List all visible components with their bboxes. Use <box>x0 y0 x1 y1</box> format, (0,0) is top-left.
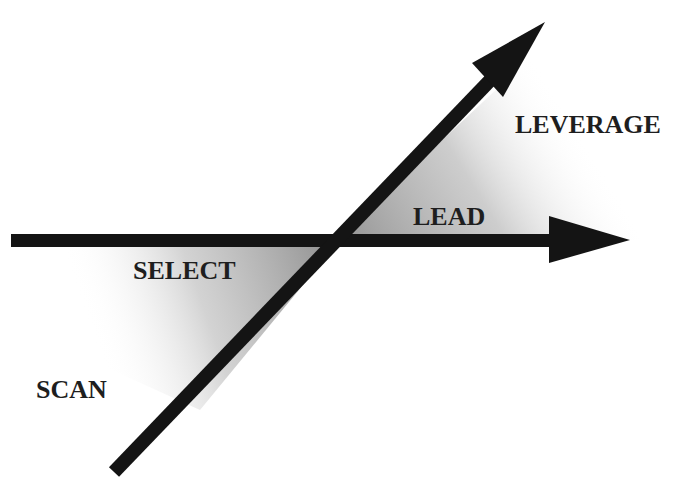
label-select: SELECT <box>133 256 236 285</box>
label-scan: SCAN <box>36 375 107 404</box>
strategy-diagram: LEVERAGE LEAD SELECT SCAN <box>0 0 691 501</box>
label-leverage: LEVERAGE <box>515 110 661 139</box>
label-lead: LEAD <box>413 202 485 231</box>
